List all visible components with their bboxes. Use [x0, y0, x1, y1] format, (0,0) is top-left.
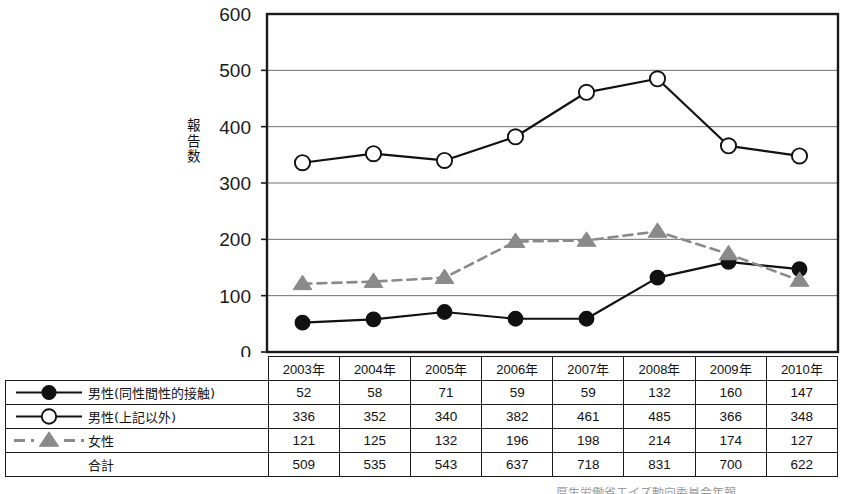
y-axis-tick-label: 400	[219, 117, 251, 138]
legend-row-1: 男性(同性間性的接触)	[6, 381, 269, 405]
table-column-header: 2008年	[624, 357, 695, 381]
table-cell-value: 352	[339, 405, 410, 429]
table-cell-value: 336	[268, 405, 339, 429]
table-row: 合計509535543637718831700622	[6, 453, 838, 477]
data-point-open-circle-icon	[579, 85, 594, 100]
line-open-circle-icon	[10, 405, 88, 428]
table-cell-value: 543	[410, 453, 481, 477]
legend-label: 女性	[88, 431, 114, 450]
table-cell-value: 485	[624, 405, 695, 429]
data-point-filled-circle-icon	[650, 270, 664, 284]
table-cell-value: 700	[695, 453, 766, 477]
y-axis-tick-label: 300	[219, 173, 251, 194]
table-column-header: 2007年	[553, 357, 624, 381]
legend-label: 男性(同性間性的接触)	[88, 383, 215, 402]
data-point-triangle-icon	[648, 223, 667, 237]
table-cell-value: 71	[410, 381, 481, 405]
table-cell-value: 348	[766, 405, 837, 429]
legend-row-2: 男性(上記以外)	[6, 405, 269, 429]
data-table: 2003年2004年2005年2006年2007年2008年2009年2010年…	[5, 356, 838, 477]
table-column-header: 2006年	[482, 357, 553, 381]
table-cell-value: 340	[410, 405, 481, 429]
table-cell-value: 125	[339, 429, 410, 453]
data-point-open-circle-icon	[295, 155, 310, 170]
data-point-filled-circle-icon	[508, 312, 522, 326]
dashed-line-triangle-icon	[10, 429, 88, 452]
table-column-header: 2010年	[766, 357, 837, 381]
table-cell-value: 718	[553, 453, 624, 477]
table-cell-value: 196	[482, 429, 553, 453]
table-header-row: 2003年2004年2005年2006年2007年2008年2009年2010年	[6, 357, 838, 381]
data-table-region: 2003年2004年2005年2006年2007年2008年2009年2010年…	[5, 356, 842, 477]
table-cell-value: 58	[339, 381, 410, 405]
table-cell-value: 831	[624, 453, 695, 477]
table-cell-value: 127	[766, 429, 837, 453]
data-point-triangle-icon	[719, 245, 738, 259]
table-cell-value: 198	[553, 429, 624, 453]
series-3	[293, 223, 809, 290]
table-cell-value: 622	[766, 453, 837, 477]
table-column-header: 2009年	[695, 357, 766, 381]
data-point-filled-circle-icon	[366, 312, 380, 326]
table-cell-value: 59	[482, 381, 553, 405]
data-point-filled-circle-icon	[579, 312, 593, 326]
series-2	[295, 71, 807, 170]
table-column-header: 2003年	[268, 357, 339, 381]
table-cell-value: 160	[695, 381, 766, 405]
table-column-header: 2004年	[339, 357, 410, 381]
table-row: 男性(上記以外)336352340382461485366348	[6, 405, 838, 429]
legend-swatch-empty	[10, 453, 88, 476]
table-cell-value: 174	[695, 429, 766, 453]
y-axis-tick-label: 600	[219, 4, 251, 25]
data-point-open-circle-icon	[437, 153, 452, 168]
table-cell-value: 366	[695, 405, 766, 429]
dashed-line-triangle-icon	[10, 429, 88, 452]
data-point-triangle-icon	[506, 233, 525, 247]
legend-swatch-empty	[10, 453, 88, 476]
table-cell-value: 535	[339, 453, 410, 477]
data-point-open-circle-icon	[721, 138, 736, 153]
data-point-open-circle-icon	[366, 146, 381, 161]
data-point-filled-circle-icon	[437, 305, 451, 319]
legend-label: 合計	[88, 455, 114, 474]
data-point-filled-circle-icon	[295, 316, 309, 330]
legend-row-3: 女性	[6, 429, 269, 453]
table-corner-cell	[6, 357, 269, 381]
legend-marker	[42, 409, 56, 423]
y-axis-title: 報告数	[182, 118, 204, 165]
table-cell-value: 461	[553, 405, 624, 429]
line-filled-circle-icon	[10, 381, 88, 404]
table-row: 男性(同性間性的接触)5258715959132160147	[6, 381, 838, 405]
line-chart-svg: 0100200300400500600	[0, 0, 847, 370]
table-cell-value: 52	[268, 381, 339, 405]
data-point-triangle-icon	[435, 269, 454, 283]
y-axis-tick-label: 200	[219, 229, 251, 250]
data-point-triangle-icon	[790, 272, 809, 286]
legend-row-4: 合計	[6, 453, 269, 477]
y-axis-tick-label: 500	[219, 60, 251, 81]
series-1	[295, 255, 806, 330]
table-column-header: 2005年	[410, 357, 481, 381]
line-filled-circle-icon	[10, 381, 88, 404]
table-cell-value: 214	[624, 429, 695, 453]
data-point-open-circle-icon	[792, 148, 807, 163]
y-axis-tick-label: 100	[219, 286, 251, 307]
table-row: 女性121125132196198214174127	[6, 429, 838, 453]
table-cell-value: 147	[766, 381, 837, 405]
chart-plot-region: 0100200300400500600 報告数	[0, 0, 847, 370]
line-open-circle-icon	[10, 405, 88, 428]
legend-marker	[39, 432, 58, 446]
legend-marker	[42, 386, 56, 400]
table-cell-value: 132	[624, 381, 695, 405]
table-cell-value: 132	[410, 429, 481, 453]
table-cell-value: 509	[268, 453, 339, 477]
table-cell-value: 121	[268, 429, 339, 453]
data-point-open-circle-icon	[508, 129, 523, 144]
legend-label: 男性(上記以外)	[88, 407, 176, 426]
table-cell-value: 382	[482, 405, 553, 429]
chart-figure: 0100200300400500600 報告数 2003年2004年2005年2…	[0, 0, 847, 494]
source-note: 厚生労働省エイズ動向委員会年報	[556, 487, 736, 494]
data-point-open-circle-icon	[650, 71, 665, 86]
table-cell-value: 637	[482, 453, 553, 477]
table-cell-value: 59	[553, 381, 624, 405]
